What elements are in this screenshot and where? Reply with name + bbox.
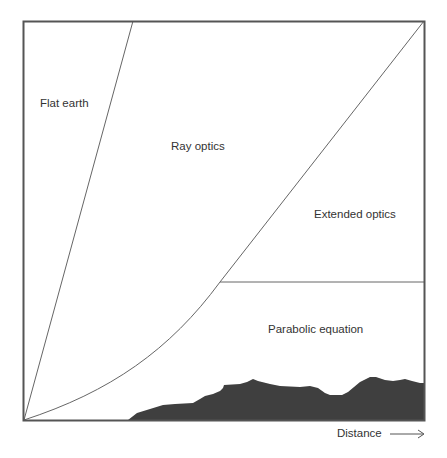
propagation-diagram: Flat earth Ray optics Extended optics Pa… — [0, 0, 447, 458]
label-parabolic-equation: Parabolic equation — [268, 323, 363, 335]
label-extended-optics: Extended optics — [314, 208, 396, 220]
diagram-frame — [24, 22, 425, 421]
x-axis-label: Distance — [337, 427, 382, 439]
terrain-profile — [128, 377, 424, 420]
right-arrow-icon — [390, 430, 424, 438]
ray-optics-boundary — [24, 21, 424, 420]
label-flat-earth: Flat earth — [40, 97, 89, 109]
flat-earth-boundary — [24, 21, 133, 420]
label-ray-optics: Ray optics — [171, 140, 225, 152]
